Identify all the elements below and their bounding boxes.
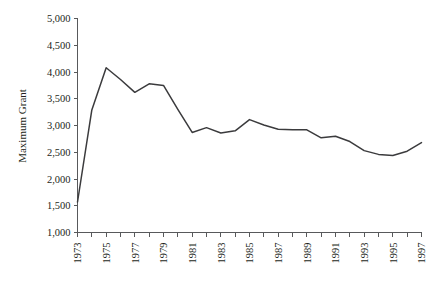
y-tick-label: 2,500 [47, 147, 71, 158]
y-axis-title: Maximum Grant [16, 89, 28, 163]
x-tick-label-group: 1973197519771979198119831985198719891991… [72, 243, 427, 264]
x-tick-label: 1991 [330, 243, 341, 264]
x-tick-mark-group [78, 233, 422, 237]
y-tick-label: 2,000 [47, 174, 71, 185]
y-tick-label: 4,000 [47, 67, 71, 78]
data-series-maximum-grant [78, 68, 422, 202]
x-tick-label: 1983 [216, 243, 227, 264]
x-tick-label: 1987 [273, 243, 284, 264]
y-tick-label: 1,000 [47, 227, 71, 238]
y-tick-label-group: 1,0001,5002,0002,5003,0003,5004,0004,500… [47, 13, 71, 238]
line-chart-figure: Maximum Grant 1,0001,5002,0002,5003,0003… [0, 0, 435, 286]
x-tick-label: 1989 [302, 243, 313, 264]
x-tick-label: 1981 [187, 243, 198, 264]
chart-canvas: Maximum Grant 1,0001,5002,0002,5003,0003… [0, 0, 435, 286]
axis-lines [78, 19, 422, 233]
x-tick-label: 1973 [72, 243, 83, 264]
x-tick-label: 1993 [359, 243, 370, 264]
x-tick-label: 1979 [158, 243, 169, 264]
y-tick-label: 3,500 [47, 93, 71, 104]
y-tick-label: 5,000 [47, 13, 71, 24]
y-axis-title-text: Maximum Grant [16, 89, 28, 163]
y-tick-label: 3,000 [47, 120, 71, 131]
x-tick-label: 1995 [388, 243, 399, 264]
y-tick-label: 1,500 [47, 200, 71, 211]
x-tick-label: 1975 [101, 243, 112, 264]
y-tick-label: 4,500 [47, 40, 71, 51]
y-tick-mark-group [74, 19, 78, 233]
x-tick-label: 1977 [130, 243, 141, 264]
x-tick-label: 1997 [416, 243, 427, 264]
x-tick-label: 1985 [244, 243, 255, 264]
